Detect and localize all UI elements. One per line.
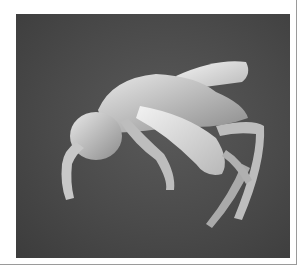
frame-bottom-border (0, 264, 297, 265)
frame-right-border (296, 0, 297, 265)
micrograph-photo (16, 14, 290, 258)
wasp-illustration (16, 14, 290, 258)
